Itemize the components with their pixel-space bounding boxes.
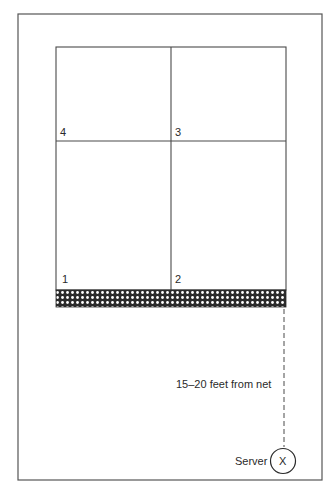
zone-label-2: 2: [175, 273, 181, 285]
server-label: Server: [235, 455, 267, 467]
distance-label: 15–20 feet from net: [176, 378, 271, 390]
server-x-icon: X: [279, 455, 286, 467]
net: [56, 290, 286, 307]
zone-label-1: 1: [62, 273, 68, 285]
zone-label-4: 4: [60, 126, 66, 138]
outer-frame: [18, 14, 322, 480]
court-diagram: [0, 0, 329, 493]
zone-label-3: 3: [175, 126, 181, 138]
